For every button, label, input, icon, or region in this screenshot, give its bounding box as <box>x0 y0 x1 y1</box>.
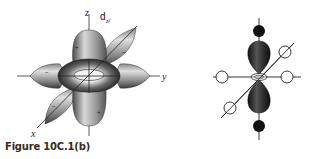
left-panel-orbital: + + − − − z y x d z² <box>17 7 167 139</box>
orbital-subscript: z² <box>105 18 110 24</box>
sign-top: + <box>75 44 79 50</box>
sign-diag-upper: − <box>122 49 126 55</box>
sign-diag-lower: − <box>52 103 56 109</box>
dz2-lobe-bottom <box>248 80 270 113</box>
y-axis-label: y <box>161 71 167 82</box>
x-axis-label: x <box>30 128 36 139</box>
z-axis-label: z <box>84 7 89 18</box>
right-panel-ligand-field <box>213 18 301 140</box>
orbital-diagram: + + − − − z y x d z² <box>0 0 312 159</box>
sign-bottom: + <box>97 109 101 115</box>
ligand-axial-top <box>253 25 265 37</box>
ligand-equatorial-right <box>281 71 293 83</box>
ligand-equatorial-left <box>216 71 228 83</box>
ligand-axial-bottom <box>253 120 265 132</box>
orbital-label: d <box>100 11 106 22</box>
figure-caption: Figure 10C.1(b) <box>5 141 90 152</box>
dz2-lobe-top <box>248 41 270 74</box>
lobe-bottom <box>73 90 106 126</box>
sign-left: − <box>45 69 49 75</box>
